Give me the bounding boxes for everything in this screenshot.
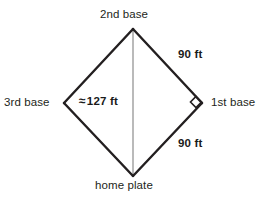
diagram-canvas: 2nd base 3rd base 1st base home plate 90… <box>0 0 268 201</box>
edge-third-to-second <box>64 29 133 103</box>
approximately-equal-icon: ≈ <box>79 94 87 108</box>
label-diagonal-value: 127 ft <box>87 95 118 107</box>
label-first-base: 1st base <box>211 96 255 109</box>
label-side-length-lower-right: 90 ft <box>178 137 203 150</box>
edge-home-to-third <box>64 103 133 176</box>
label-second-base: 2nd base <box>100 8 148 21</box>
label-side-length-upper-right: 90 ft <box>178 48 203 61</box>
label-home-plate: home plate <box>95 179 153 192</box>
label-diagonal-length: ≈127 ft <box>79 95 118 108</box>
edge-second-to-first <box>133 29 202 103</box>
label-third-base: 3rd base <box>4 96 50 109</box>
